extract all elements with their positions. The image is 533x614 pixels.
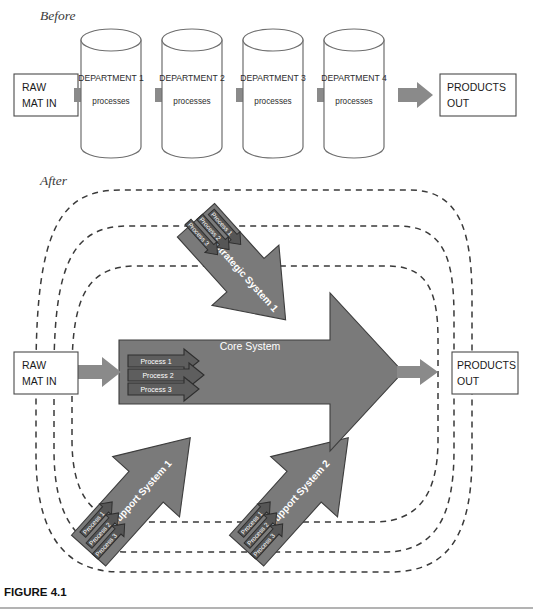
core-system: Core System Process 1 Process 2 Process … xyxy=(119,293,403,451)
before-department-2-title: DEPARTMENT 2 xyxy=(159,73,225,83)
core-process-1-label: Process 1 xyxy=(140,358,171,365)
figure-container: Before After RAW MAT IN DEPART xyxy=(0,0,533,614)
before-department-1: DEPARTMENT 1 processes xyxy=(78,29,144,158)
before-products-out-line2: OUT xyxy=(447,97,470,109)
core-process-2-label: Process 2 xyxy=(142,372,173,379)
after-raw-mat-in-box: RAW MAT IN xyxy=(14,352,78,394)
after-raw-mat-in-line1: RAW xyxy=(22,359,46,371)
after-products-out-box: PRODUCTS OUT xyxy=(452,352,518,394)
before-department-3-title: DEPARTMENT 3 xyxy=(240,73,306,83)
strategic-system-1: Strategic System 1 Process 1 Process 2 P… xyxy=(160,187,319,350)
after-output-arrow xyxy=(397,359,438,385)
core-system-label: Core System xyxy=(220,340,281,352)
before-department-2: DEPARTMENT 2 processes xyxy=(159,29,225,158)
before-products-out-line1: PRODUCTS xyxy=(447,81,506,93)
after-section-label: After xyxy=(39,173,68,188)
after-raw-mat-in-line2: MAT IN xyxy=(22,375,57,387)
figure-caption: FIGURE 4.1 xyxy=(4,586,67,598)
before-department-4-subtitle: processes xyxy=(335,97,372,106)
before-products-out-box: PRODUCTS OUT xyxy=(440,74,516,116)
before-department-2-subtitle: processes xyxy=(173,97,210,106)
after-input-arrow xyxy=(76,357,121,387)
after-diagram: Strategic System 1 Process 1 Process 2 P… xyxy=(14,187,518,581)
before-department-1-title: DEPARTMENT 1 xyxy=(78,73,144,83)
before-section-label: Before xyxy=(40,8,75,23)
after-products-out-line2: OUT xyxy=(457,375,480,387)
before-raw-mat-in-box: RAW MAT IN xyxy=(14,74,78,116)
before-arrow-5 xyxy=(398,82,433,108)
before-department-4-title: DEPARTMENT 4 xyxy=(321,73,387,83)
process-diagram: Before After RAW MAT IN DEPART xyxy=(0,0,533,614)
before-raw-mat-in-line2: MAT IN xyxy=(22,97,57,109)
before-diagram: RAW MAT IN DEPARTMENT 1 processes xyxy=(14,29,516,158)
before-department-1-subtitle: processes xyxy=(92,97,129,106)
before-department-3-subtitle: processes xyxy=(254,97,291,106)
after-products-out-line1: PRODUCTS xyxy=(457,359,516,371)
before-raw-mat-in-line1: RAW xyxy=(22,81,46,93)
before-department-4: DEPARTMENT 4 processes xyxy=(321,29,387,158)
figure-caption-group: FIGURE 4.1 xyxy=(0,586,533,608)
support-system-2: Support System 2 Process 1 Process 2 Pro… xyxy=(213,408,382,581)
core-system-processes: Process 1 Process 2 Process 3 xyxy=(128,349,204,401)
support-system-1: Support System 1 Process 1 Process 2 Pro… xyxy=(55,408,224,581)
before-department-3: DEPARTMENT 3 processes xyxy=(240,29,306,158)
core-process-3-label: Process 3 xyxy=(140,386,171,393)
